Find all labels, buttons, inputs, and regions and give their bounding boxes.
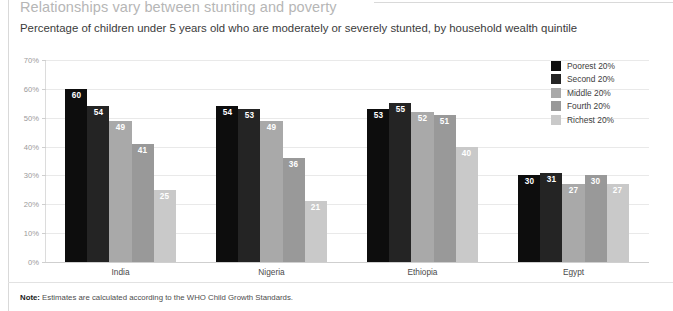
bar[interactable]: 30 — [585, 175, 607, 262]
y-axis-tick-label: 50% — [24, 113, 39, 122]
footnote-text: Estimates are calculated according to th… — [40, 293, 293, 302]
legend-label: Middle 20% — [567, 88, 611, 98]
bar[interactable]: 49 — [260, 121, 282, 262]
bar-value-label: 53 — [238, 111, 260, 120]
bars: 6054494125 — [45, 60, 196, 262]
bar[interactable]: 41 — [132, 144, 154, 262]
legend-item[interactable]: Poorest 20% — [551, 61, 615, 71]
bar[interactable]: 36 — [283, 158, 305, 262]
bars: 5355525140 — [347, 60, 498, 262]
bar[interactable]: 40 — [456, 147, 478, 262]
bar-group-nigeria: 5453493621Nigeria — [196, 60, 347, 262]
bar-value-label: 49 — [260, 123, 282, 132]
bar-value-label: 54 — [216, 108, 238, 117]
bar[interactable]: 31 — [540, 173, 562, 262]
bar[interactable]: 54 — [216, 106, 238, 262]
bar-value-label: 41 — [132, 146, 154, 155]
panel-left-border — [8, 0, 9, 311]
bar-value-label: 27 — [607, 186, 629, 195]
bar[interactable]: 27 — [562, 184, 584, 262]
x-axis-label-india: India — [45, 267, 196, 277]
y-axis-tick-label: 70% — [24, 56, 39, 65]
bars: 5453493621 — [196, 60, 347, 262]
bar-value-label: 30 — [518, 177, 540, 186]
y-axis-tick-label: 0% — [28, 258, 39, 267]
bar[interactable]: 54 — [87, 106, 109, 262]
footnote-label: Note: — [20, 293, 40, 302]
bar-value-label: 31 — [540, 175, 562, 184]
bar[interactable]: 27 — [607, 184, 629, 262]
bar-value-label: 51 — [434, 117, 456, 126]
bar[interactable]: 51 — [434, 115, 456, 262]
bar-value-label: 49 — [109, 123, 131, 132]
bar[interactable]: 52 — [411, 112, 433, 262]
bar-value-label: 27 — [562, 186, 584, 195]
bar-value-label: 55 — [389, 105, 411, 114]
chart-subtitle: Percentage of children under 5 years old… — [20, 22, 577, 34]
legend-item[interactable]: Second 20% — [551, 74, 615, 84]
y-axis-tick-label: 40% — [24, 142, 39, 151]
y-axis-tick-mark — [42, 262, 46, 263]
x-axis-label-egypt: Egypt — [498, 267, 649, 277]
legend-item[interactable]: Richest 20% — [551, 115, 615, 125]
bar[interactable]: 25 — [154, 190, 176, 262]
chart-title: Relationships vary between stunting and … — [20, 0, 337, 15]
y-axis-tick-label: 60% — [24, 84, 39, 93]
bar-value-label: 53 — [367, 111, 389, 120]
gridline-0: 0% — [45, 262, 649, 263]
bar[interactable]: 21 — [305, 201, 327, 262]
bar-value-label: 36 — [283, 160, 305, 169]
legend-swatch-icon — [551, 74, 561, 84]
legend-label: Poorest 20% — [567, 61, 615, 71]
x-axis-label-nigeria: Nigeria — [196, 267, 347, 277]
bar-value-label: 25 — [154, 192, 176, 201]
bar-value-label: 21 — [305, 203, 327, 212]
y-axis-tick-label: 20% — [24, 200, 39, 209]
bar[interactable]: 30 — [518, 175, 540, 262]
bar-value-label: 52 — [411, 114, 433, 123]
bar-value-label: 40 — [456, 149, 478, 158]
legend-swatch-icon — [551, 101, 561, 111]
panel-top-border — [374, 2, 673, 3]
bar[interactable]: 53 — [367, 109, 389, 262]
y-axis-tick-label: 30% — [24, 171, 39, 180]
bar-value-label: 60 — [65, 91, 87, 100]
legend-swatch-icon — [551, 61, 561, 71]
y-axis-tick-label: 10% — [24, 229, 39, 238]
legend-swatch-icon — [551, 88, 561, 98]
figure-container: Relationships vary between stunting and … — [0, 0, 673, 311]
bar[interactable]: 53 — [238, 109, 260, 262]
bar[interactable]: 55 — [389, 103, 411, 262]
chart-legend: Poorest 20%Second 20%Middle 20%Fourth 20… — [551, 61, 615, 125]
legend-swatch-icon — [551, 115, 561, 125]
legend-item[interactable]: Middle 20% — [551, 88, 615, 98]
legend-label: Fourth 20% — [567, 101, 610, 111]
bar-group-ethiopia: 5355525140Ethiopia — [347, 60, 498, 262]
legend-label: Second 20% — [567, 74, 615, 84]
bar[interactable]: 49 — [109, 121, 131, 262]
x-axis-label-ethiopia: Ethiopia — [347, 267, 498, 277]
bar-group-india: 6054494125India — [45, 60, 196, 262]
bar[interactable]: 60 — [65, 89, 87, 262]
bar-value-label: 54 — [87, 108, 109, 117]
legend-label: Richest 20% — [567, 115, 614, 125]
legend-item[interactable]: Fourth 20% — [551, 101, 615, 111]
panel-bottom-divider — [8, 282, 673, 283]
bar-value-label: 30 — [585, 177, 607, 186]
footnote: Note: Estimates are calculated according… — [20, 293, 293, 302]
